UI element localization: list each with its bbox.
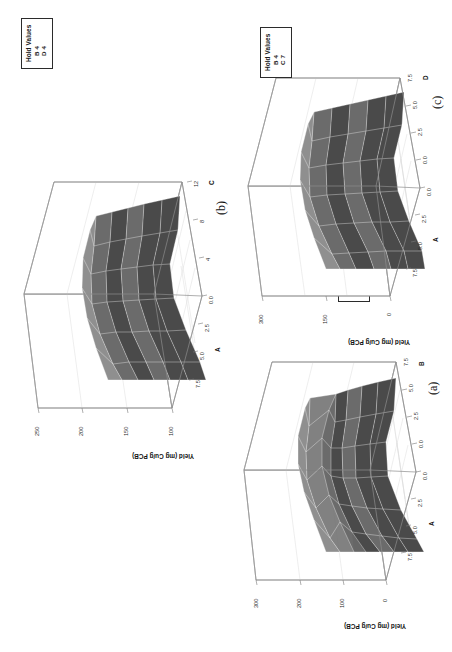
panel-b-x-tick-0: 0.0: [208, 296, 214, 304]
panel-b-z-tick-1: 150: [123, 427, 129, 436]
panel-c-x-tick-3: 7.5: [412, 269, 418, 277]
panel-b-z-tick-2: 200: [78, 427, 84, 436]
panel-c: Yield (mg Cu/g PCB) 0 150 300 0.0 2.5 5.…: [238, 52, 446, 352]
panel-a-z-tick-1: 100: [339, 599, 345, 608]
panel-b-y-axis-title: C: [208, 180, 215, 185]
panel-c-y-tick-3: 7.5: [407, 74, 413, 82]
panel-a-z-tick-2: 200: [296, 599, 302, 608]
panel-b-hold-values-title: Hold Values: [25, 25, 32, 62]
panel-c-y-tick-2: 5.0: [412, 101, 418, 109]
panel-b-y-tick-2: 12: [193, 181, 199, 187]
panel-c-x-tick-1: 2.5: [421, 215, 427, 223]
panel-c-y-axis-title: D: [422, 75, 429, 80]
panel-b-x-axis-title: A: [214, 347, 221, 352]
panel-a-y-axis-title: B: [418, 361, 425, 366]
panel-a-y-tick-3: 7.5: [403, 358, 409, 366]
panel-a-y-tick-2: 5.0: [408, 384, 414, 392]
rotated-page: Yield (mg Cu/g PCB) 0 100 200 300 0.0 2.…: [0, 0, 452, 652]
panel-b-label: (b): [214, 201, 229, 215]
panel-b-y-tick-1: 8: [199, 220, 205, 223]
panel-a-y-tick-1: 2.5: [413, 412, 419, 420]
panel-b-hold-values-box: Hold Values B 4 D 4: [21, 18, 53, 69]
panel-b: Yield (mg Cu/g PCB) 100 150 200 250 0.0 …: [12, 160, 227, 470]
panel-c-hold-values-row-0: B 4: [272, 34, 279, 71]
panel-a-z-axis-title: Yield (mg Cu/g PCB): [344, 623, 406, 630]
panel-a-y-tick-0: 0.0: [418, 440, 424, 448]
panel-c-hold-values-row-1: C 7: [279, 34, 286, 71]
panel-c-label: (c): [430, 96, 445, 109]
panel-b-hold-values-row-0: B 4: [33, 25, 40, 62]
panel-a-x-tick-2: 5.0: [412, 526, 418, 534]
panel-b-z-axis-title: Yield (mg Cu/g PCB): [132, 453, 194, 460]
panel-a-z-tick-0: 0: [382, 599, 388, 602]
panel-a-x-tick-0: 0.0: [422, 472, 428, 480]
panel-c-x-tick-0: 0.0: [426, 188, 432, 196]
panel-c-x-tick-2: 5.0: [417, 242, 423, 250]
panel-c-y-tick-1: 2.5: [417, 128, 423, 136]
panel-c-z-axis-title: Yield (mg Cu/g PCB): [348, 339, 410, 346]
panel-b-x-tick-1: 2.5: [204, 324, 210, 332]
panel-b-x-tick-2: 5.0: [199, 352, 205, 360]
panel-a-x-axis-title: A: [428, 521, 435, 526]
panel-b-z-tick-3: 250: [34, 427, 40, 436]
panel-a-z-tick-3: 300: [253, 599, 259, 608]
figure-surface-plots: Yield (mg Cu/g PCB) 0 100 200 300 0.0 2.…: [0, 0, 452, 652]
panel-c-z-tick-1: 150: [322, 315, 328, 324]
panel-a-x-tick-3: 7.5: [407, 553, 413, 561]
panel-a: Yield (mg Cu/g PCB) 0 100 200 300 0.0 2.…: [236, 338, 446, 638]
panel-c-hold-values-title: Hold Values: [264, 34, 271, 71]
panel-c-y-tick-0: 0.0: [422, 156, 428, 164]
panel-b-z-tick-0: 100: [168, 427, 174, 436]
panel-c-z-tick-0: 0: [386, 313, 392, 316]
panel-a-plot: [236, 338, 448, 638]
panel-c-hold-values-box: Hold Values B 4 C 7: [260, 27, 292, 78]
panel-c-x-axis-title: A: [432, 237, 439, 242]
panel-b-hold-values-row-1: D 4: [40, 25, 47, 62]
panel-b-x-tick-3: 7.5: [195, 380, 201, 388]
panel-b-y-tick-0: 4: [205, 258, 211, 261]
panel-b-plot: [12, 160, 228, 470]
panel-a-x-tick-1: 2.5: [417, 499, 423, 507]
panel-a-label: (a): [426, 382, 441, 395]
panel-c-z-tick-2: 300: [258, 315, 264, 324]
panel-c-plot: [238, 52, 448, 352]
